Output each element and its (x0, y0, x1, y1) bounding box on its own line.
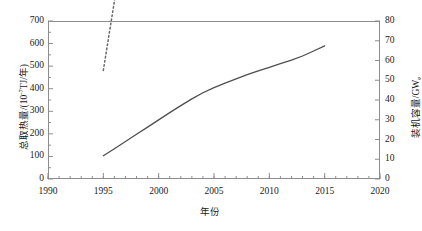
right-tick-label: 80 (385, 16, 395, 26)
right-tick-label: 60 (385, 56, 395, 66)
right-tick-label: 30 (385, 115, 395, 125)
right-axis-title: 装机容量/GWe (408, 32, 422, 182)
right-tick-label: 70 (385, 36, 395, 46)
left-tick-label: 700 (2, 16, 44, 26)
tick-label: 2020 (371, 187, 390, 197)
right-tick-label: 50 (385, 76, 395, 86)
x-axis-title: 年份 (0, 204, 420, 218)
right-tick-label: 0 (385, 174, 390, 184)
tick-label: 2010 (260, 187, 279, 197)
right-tick-label: 20 (385, 135, 395, 145)
tick-label: 2015 (315, 187, 334, 197)
right-tick-label: 10 (385, 155, 395, 165)
tick-label: 2005 (205, 187, 224, 197)
tick-label: 2000 (149, 187, 168, 197)
right-tick-label: 40 (385, 95, 395, 105)
plot-area (48, 21, 380, 179)
left-axis-title: 总取热量/(10-7TJ/年) (16, 32, 30, 182)
tick-label: 1995 (94, 187, 113, 197)
tick-label: 1990 (39, 187, 58, 197)
